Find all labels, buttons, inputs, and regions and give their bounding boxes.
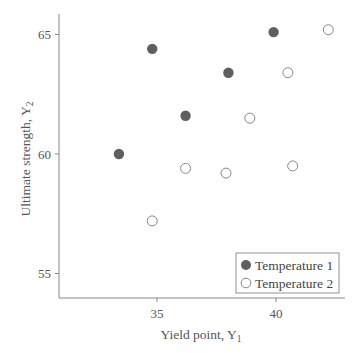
data-point-series-2: [283, 68, 293, 78]
data-point-series-2: [147, 216, 157, 226]
x-tick-label: 35: [151, 306, 164, 321]
data-point-series-1: [114, 149, 124, 159]
y-ticks: 556065: [38, 27, 59, 281]
x-ticks: 3540: [151, 298, 283, 321]
data-point-series-2: [288, 161, 298, 171]
data-point-series-1: [268, 27, 278, 37]
scatter-chart: 3540 556065 Yield point, Y1 Ultimate str…: [0, 0, 363, 353]
y-tick-label: 55: [38, 266, 51, 281]
data-point-series-2: [323, 25, 333, 35]
x-axis-label: Yield point, Y1: [160, 327, 241, 344]
data-point-series-2: [245, 113, 255, 123]
legend-marker-temperature-2: [241, 278, 251, 288]
legend: Temperature 1 Temperature 2: [236, 253, 339, 293]
y-tick-label: 60: [38, 147, 51, 162]
legend-label-temperature-1: Temperature 1: [255, 258, 333, 273]
y-axis-label: Ultimate strength, Y2: [18, 101, 35, 216]
data-point-series-1: [180, 111, 190, 121]
y-tick-label: 65: [38, 27, 51, 42]
data-point-series-2: [221, 168, 231, 178]
legend-label-temperature-2: Temperature 2: [255, 276, 333, 291]
data-points: [114, 25, 334, 226]
legend-marker-temperature-1: [241, 260, 251, 270]
data-point-series-1: [223, 68, 233, 78]
data-point-series-1: [147, 44, 157, 54]
x-tick-label: 40: [270, 306, 283, 321]
data-point-series-2: [181, 163, 191, 173]
